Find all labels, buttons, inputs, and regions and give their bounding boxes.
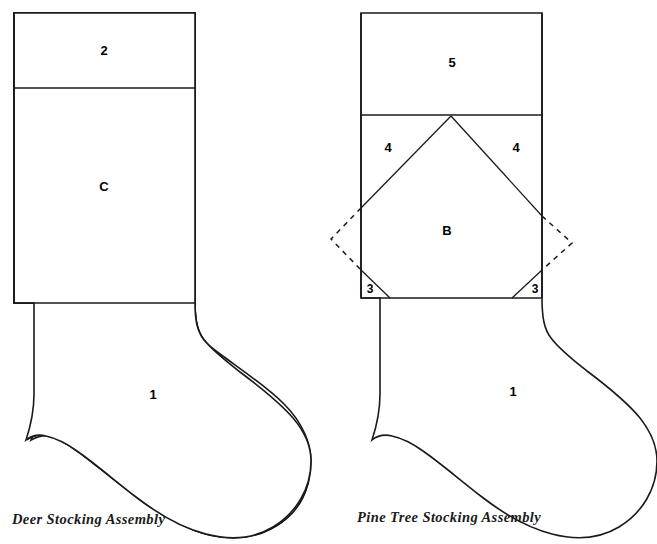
pine-tree-stocking-caption: Pine Tree Stocking Assembly — [357, 509, 541, 525]
pine-tree-piece-label-1: 1 — [509, 384, 516, 399]
deer-stocking-diagram: 2 C 1 Deer Stocking Assembly — [11, 13, 311, 538]
stocking-assembly-diagram: 2 C 1 Deer Stocking Assembly 5 4 — [0, 0, 657, 544]
deer-piece-label-C: C — [99, 179, 109, 194]
pine-tree-piece-label-5: 5 — [448, 55, 455, 70]
pine-tree-piece-label-4-right: 4 — [512, 140, 520, 155]
pine-tree-dashed-flap-right — [542, 216, 572, 270]
pine-tree-stocking-body — [361, 13, 657, 538]
deer-stocking-caption: Deer Stocking Assembly — [11, 511, 165, 527]
pine-tree-piece-label-4-left: 4 — [384, 140, 392, 155]
pine-tree-piece-label-B: B — [442, 223, 451, 238]
deer-piece-label-2: 2 — [100, 43, 107, 58]
deer-stocking-body — [14, 13, 311, 538]
pine-tree-stocking-diagram: 5 4 4 B 3 3 1 Pine Tree Stocking Assembl… — [331, 13, 657, 538]
deer-piece-label-1: 1 — [149, 387, 156, 402]
pine-tree-piece-label-3-left: 3 — [367, 282, 374, 296]
pine-tree-dashed-flap-left — [331, 208, 361, 270]
pine-tree-piece-label-3-right: 3 — [532, 282, 539, 296]
